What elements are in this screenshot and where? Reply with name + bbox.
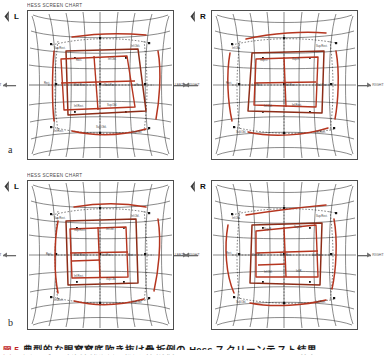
eye-label-right: R <box>190 10 206 23</box>
svg-text:Med.Rect.: Med.Rect. <box>104 83 116 87</box>
eye-label-left: L <box>4 180 19 193</box>
svg-text:Sup.Rect.: Sup.Rect. <box>74 228 86 232</box>
svg-text:Rect.: Rect. <box>128 253 134 257</box>
eye-side-label: R <box>200 183 206 191</box>
svg-text:Inf.Obl.: Inf.Obl. <box>108 57 117 61</box>
svg-text:Sup.R.: Sup.R. <box>264 227 272 231</box>
hess-grid-chart: Inf.Obl. Sup.Rect. Sup.R. Sup.O. Rect. M… <box>211 180 358 330</box>
svg-text:Sup.Rect.: Sup.Rect. <box>54 46 66 50</box>
svg-text:Rect.: Rect. <box>226 81 232 85</box>
svg-text:Inf.R.: Inf.R. <box>296 269 302 273</box>
svg-text:Sup.Obl.: Sup.Obl. <box>132 130 142 134</box>
svg-text:Med.Rect.: Med.Rect. <box>74 253 86 257</box>
svg-text:Inf.Rect.: Inf.Rect. <box>54 298 64 302</box>
eye-side-label: L <box>14 13 19 21</box>
svg-text:Lat.Rect.: Lat.Rect. <box>252 83 263 87</box>
svg-text:Med.Rect.: Med.Rect. <box>74 83 86 87</box>
hess-grid-chart: Inf.Obl. Sup.Rect. Sup.O. Sup.R. Rect. L… <box>211 10 358 160</box>
svg-text:Inf.Rect.: Inf.Rect. <box>292 103 302 107</box>
svg-text:Inf.Obli.: Inf.Obli. <box>131 44 140 48</box>
svg-text:Sup.Obl.: Sup.Obl. <box>236 300 246 304</box>
svg-text:Sup.Rect.: Sup.Rect. <box>316 44 328 48</box>
svg-text:Sup.Rect.: Sup.Rect. <box>316 214 328 218</box>
eye-label-right: R <box>190 180 206 193</box>
arrow-left-icon <box>185 254 198 255</box>
eye-icon <box>190 180 199 193</box>
svg-text:Med.Rect.: Med.Rect. <box>316 83 328 87</box>
arrow-right-icon <box>358 254 371 255</box>
axis-marker-left: LEFT <box>0 82 16 87</box>
svg-text:Sup.Rect.: Sup.Rect. <box>54 216 66 220</box>
svg-text:Inf.Rect.: Inf.Rect. <box>316 130 326 134</box>
svg-text:Med.Rect.: Med.Rect. <box>284 83 296 87</box>
svg-text:Inf.Obl.: Inf.Obl. <box>264 270 273 274</box>
svg-text:Inf.Rect.: Inf.Rect. <box>316 300 326 304</box>
arrow-right-icon <box>358 84 371 85</box>
svg-text:Lat.Rect.: Lat.Rect. <box>312 253 323 257</box>
svg-text:Sup.Obl.: Sup.Obl. <box>236 130 246 134</box>
eye-label-left: L <box>4 10 19 23</box>
axis-marker-left: LEFT <box>175 82 198 87</box>
hess-grid-chart: Sup.Rect. Inf.Obli. Rect. Inf.Obl. Rect.… <box>27 10 174 160</box>
svg-text:Sup.Obl.: Sup.Obl. <box>106 277 116 281</box>
axis-left-label: LEFT <box>0 82 2 87</box>
svg-text:Sup.O.: Sup.O. <box>260 58 268 62</box>
eye-icon <box>4 10 13 23</box>
axis-left-label: LEFT <box>175 82 184 87</box>
arrow-left-icon <box>185 84 198 85</box>
panel-b-right: R LEFT <box>186 170 373 340</box>
svg-text:Inf.Rect.: Inf.Rect. <box>74 274 84 278</box>
svg-text:Rect.: Rect. <box>226 251 232 255</box>
axis-right-label: RIGHT <box>372 252 383 257</box>
svg-text:Inf.Obl.: Inf.Obl. <box>232 216 241 220</box>
svg-text:Rect.: Rect. <box>76 58 82 62</box>
arrow-left-icon <box>3 254 16 255</box>
svg-text:Lat.Rect.: Lat.Rect. <box>102 253 113 257</box>
axis-marker-left: LEFT <box>175 252 198 257</box>
svg-text:Inf.Obl.: Inf.Obl. <box>131 214 140 218</box>
row-label-a: a <box>8 145 12 155</box>
svg-text:Med.Rect.: Med.Rect. <box>252 253 264 257</box>
svg-text:Sup.R.: Sup.R. <box>292 57 300 61</box>
row-label-b: b <box>8 318 13 328</box>
svg-text:Sup.O.: Sup.O. <box>294 225 302 229</box>
svg-text:Inf.Obl.: Inf.Obl. <box>264 104 273 108</box>
eye-icon <box>190 10 199 23</box>
hess-grid-chart: Sup.Rect. Inf.Obl. Sup.Rect. Inf.Obl. Re… <box>27 180 174 330</box>
panel-header-title: HESS SCREEN CHART <box>27 3 82 8</box>
panel-header-title: HESS SCREEN CHART <box>27 173 82 178</box>
panel-a-left: HESS SCREEN CHART L LEFT <box>0 0 186 170</box>
axis-left-label: LEFT <box>0 252 2 257</box>
svg-text:Sup.Obl.: Sup.Obl. <box>107 103 117 107</box>
svg-text:Inf.Rect.: Inf.Rect. <box>74 104 84 108</box>
svg-text:Inf.Obl.: Inf.Obl. <box>106 227 115 231</box>
axis-marker-left: LEFT <box>0 252 16 257</box>
panel-a-right: R LEFT <box>186 0 373 170</box>
eye-side-label: R <box>200 13 206 21</box>
eye-icon <box>4 180 13 193</box>
svg-text:Sup.Obl.: Sup.Obl. <box>132 300 142 304</box>
axis-marker-right: RIGHT <box>358 252 384 257</box>
svg-text:Rect.: Rect. <box>46 252 52 256</box>
arrow-left-icon <box>3 84 16 85</box>
panel-b-left: HESS SCREEN CHART L LEFT <box>0 170 186 340</box>
svg-text:Med.Rect.: Med.Rect. <box>280 253 292 257</box>
svg-text:Inf.Obl.: Inf.Obl. <box>232 46 241 50</box>
caption-clip-mask <box>0 350 373 354</box>
svg-text:Inf.Rect.: Inf.Rect. <box>54 129 64 133</box>
svg-text:Sup.Obli.: Sup.Obli. <box>96 125 107 129</box>
svg-text:Lat.Rect.: Lat.Rect. <box>132 83 143 87</box>
axis-marker-right: RIGHT <box>358 82 384 87</box>
svg-text:Rect.: Rect. <box>44 81 50 85</box>
axis-left-label: LEFT <box>175 252 184 257</box>
eye-side-label: L <box>14 183 19 191</box>
axis-right-label: RIGHT <box>372 82 383 87</box>
